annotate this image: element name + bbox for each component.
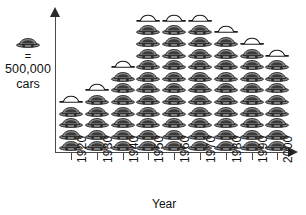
car-icon — [187, 94, 213, 106]
pictograph-chart: = 500,000 cars Year 19201930194019501960… — [0, 0, 306, 215]
car-icon — [110, 106, 136, 118]
car-icon — [187, 71, 213, 83]
car-icon-partial — [213, 24, 239, 36]
car-icon — [187, 59, 213, 71]
chart-key: = 500,000 cars — [0, 34, 56, 92]
x-axis-tick-1940 — [123, 153, 124, 160]
car-icon — [161, 59, 187, 71]
car-icon — [161, 24, 187, 36]
key-equals-sign: = — [0, 51, 56, 62]
car-icon — [239, 106, 265, 118]
x-axis-label-2000: 2000 — [282, 136, 294, 164]
car-icon — [213, 82, 239, 94]
car-icon-partial — [187, 13, 213, 25]
x-axis-label-1980: 1980 — [231, 136, 243, 164]
car-icon — [84, 94, 110, 106]
car-icon — [161, 36, 187, 48]
x-axis-title: Year — [152, 198, 176, 210]
car-icon — [213, 59, 239, 71]
car-icon — [58, 106, 84, 118]
car-icon — [264, 117, 290, 129]
x-axis-tick-2000 — [277, 153, 278, 160]
car-icon — [161, 48, 187, 60]
x-axis-tick-1980 — [226, 153, 227, 160]
car-icon — [239, 59, 265, 71]
car-icon — [135, 117, 161, 129]
car-icon-partial — [58, 94, 84, 106]
car-icon — [264, 106, 290, 118]
pictograph-column-1960 — [161, 13, 187, 152]
car-icon — [161, 106, 187, 118]
car-icon — [213, 117, 239, 129]
x-axis-label-1960: 1960 — [179, 136, 191, 164]
car-icon — [213, 36, 239, 48]
car-icon-partial — [264, 48, 290, 60]
x-axis-label-1920: 1920 — [76, 136, 88, 164]
car-icon-partial — [239, 36, 265, 48]
car-icon — [110, 71, 136, 83]
car-icon — [264, 59, 290, 71]
x-axis-tick-1970 — [200, 153, 201, 160]
car-icon — [161, 82, 187, 94]
car-icon — [213, 48, 239, 60]
car-icon — [239, 48, 265, 60]
car-icon — [239, 94, 265, 106]
car-icon — [135, 71, 161, 83]
x-axis-label-1990: 1990 — [257, 136, 269, 164]
car-icon — [187, 82, 213, 94]
x-axis-tick-1960 — [174, 153, 175, 160]
car-icon — [264, 82, 290, 94]
car-icon — [135, 82, 161, 94]
car-icon — [239, 82, 265, 94]
car-icon — [239, 117, 265, 129]
car-icon-partial — [84, 82, 110, 94]
pictograph-column-1980 — [213, 24, 239, 152]
car-icon — [264, 94, 290, 106]
car-icon — [213, 94, 239, 106]
x-axis-tick-1950 — [148, 153, 149, 160]
car-icon — [58, 117, 84, 129]
x-axis-tick-1920 — [71, 153, 72, 160]
pictograph-column-1970 — [187, 13, 213, 152]
car-icon — [161, 117, 187, 129]
x-axis-label-1940: 1940 — [128, 136, 140, 164]
key-value-label: 500,000 — [0, 62, 56, 77]
pictograph-columns — [55, 0, 295, 152]
car-icon — [135, 106, 161, 118]
car-icon — [187, 48, 213, 60]
x-axis-tick-1930 — [97, 153, 98, 160]
car-icon — [84, 106, 110, 118]
car-icon — [84, 117, 110, 129]
car-icon — [161, 94, 187, 106]
car-icon — [110, 94, 136, 106]
car-icon — [187, 106, 213, 118]
key-unit-label: cars — [0, 77, 56, 92]
x-axis-tick-1990 — [252, 153, 253, 160]
x-axis-label-1930: 1930 — [102, 136, 114, 164]
car-icon — [110, 82, 136, 94]
car-icon — [187, 36, 213, 48]
car-icon — [187, 117, 213, 129]
car-icon — [187, 24, 213, 36]
car-icon — [110, 117, 136, 129]
pictograph-column-1950 — [135, 13, 161, 152]
car-icon-partial — [135, 13, 161, 25]
car-icon — [135, 48, 161, 60]
car-icon-partial — [110, 59, 136, 71]
x-axis-label-1970: 1970 — [205, 136, 217, 164]
car-icon — [213, 106, 239, 118]
car-icon — [161, 71, 187, 83]
car-icon — [135, 94, 161, 106]
key-car-icon — [0, 34, 56, 50]
car-icon — [239, 71, 265, 83]
car-icon-partial — [161, 13, 187, 25]
x-axis-line — [55, 152, 288, 153]
car-icon — [213, 71, 239, 83]
x-axis-label-1950: 1950 — [153, 136, 165, 164]
car-icon — [135, 59, 161, 71]
car-icon — [135, 24, 161, 36]
car-icon — [135, 36, 161, 48]
car-icon — [264, 71, 290, 83]
